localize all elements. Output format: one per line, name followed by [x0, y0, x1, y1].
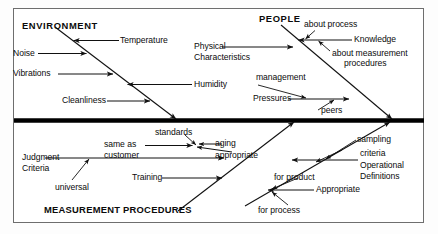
cause-label-physical: Physical — [194, 41, 226, 51]
sub-label-standards: standards — [155, 127, 192, 137]
sub-label-about-measurement: about measurement — [332, 48, 408, 58]
sub-label-universal: universal — [55, 182, 89, 192]
cause-label-noise: Noise — [13, 48, 35, 58]
cause-label-judgment: Judgment — [22, 152, 59, 162]
sub-label-management: management — [256, 72, 306, 82]
cause-label-temperature: Temperature — [120, 35, 168, 45]
sub-label-criteria-right: criteria — [360, 148, 385, 158]
cause-label-same-as: same as — [104, 139, 136, 149]
cause-label-criteria-left: Criteria — [22, 163, 49, 173]
cause-label-appropriate: Appropriate — [316, 184, 360, 194]
sub-label-about-process: about process — [304, 19, 357, 29]
sub-label-for-product: for product — [274, 172, 315, 182]
sub-label-for-process: for process — [258, 205, 300, 215]
cause-label-appropriate-sub: appropriate — [215, 150, 258, 160]
cause-label-definitions: Definitions — [360, 171, 400, 181]
category-label-environment: ENVIRONMENT — [22, 21, 98, 31]
cause-label-pressures: Pressures — [253, 93, 291, 103]
cause-label-aging: aging — [215, 138, 236, 148]
category-label-people: PEOPLE — [259, 14, 301, 24]
sub-label-sampling: sampling — [357, 134, 391, 144]
fishbone-diagram-canvas: ENVIRONMENT Temperature Noise Vibrations… — [0, 0, 438, 234]
sub-label-peers: peers — [321, 105, 342, 115]
cause-label-customer: customer — [104, 150, 139, 160]
cause-label-training: Training — [132, 172, 162, 182]
cause-label-characteristics: Characteristics — [194, 52, 250, 62]
cause-label-vibrations: Vibrations — [13, 68, 51, 78]
sub-label-procedures: procedures — [344, 58, 387, 68]
cause-label-knowledge: Knowledge — [354, 34, 396, 44]
cause-label-humidity: Humidity — [194, 79, 227, 89]
cause-label-operational: Operational — [360, 160, 404, 170]
category-label-measurement-procedures: MEASUREMENT PROCEDURES — [44, 205, 192, 215]
cause-label-cleanliness: Cleanliness — [62, 95, 106, 105]
